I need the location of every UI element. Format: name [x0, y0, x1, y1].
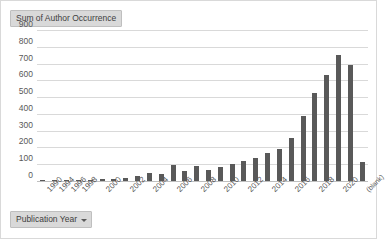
bar[interactable] — [123, 178, 128, 181]
x-slot: 2014 — [262, 182, 274, 222]
bar-slot — [37, 30, 49, 181]
x-slot: 2000 — [96, 182, 108, 222]
bar-slot — [345, 30, 357, 181]
x-slot — [345, 182, 357, 222]
x-slot — [203, 182, 215, 222]
y-tick-label: 900 — [1, 20, 33, 29]
x-slot: 2016 — [285, 182, 297, 222]
bar-slot — [333, 30, 345, 181]
x-slot: 2020 — [333, 182, 345, 222]
bar-slot — [238, 30, 250, 181]
bar-slot — [49, 30, 61, 181]
bar-slot — [297, 30, 309, 181]
bar-slot — [167, 30, 179, 181]
bar-slot — [84, 30, 96, 181]
x-slot: (blank) — [356, 182, 368, 222]
bar-slot — [179, 30, 191, 181]
y-tick-label: 100 — [1, 154, 33, 163]
x-slot: 2018 — [309, 182, 321, 222]
bar[interactable] — [312, 93, 317, 181]
x-slot — [226, 182, 238, 222]
x-slot — [155, 182, 167, 222]
bar[interactable] — [265, 153, 270, 181]
bar[interactable] — [147, 173, 152, 181]
x-slot: 2004 — [143, 182, 155, 222]
y-tick-label: 400 — [1, 103, 33, 112]
x-slot: 2012 — [238, 182, 250, 222]
bar-slot — [120, 30, 132, 181]
bar[interactable] — [360, 162, 365, 181]
bar[interactable] — [348, 65, 353, 181]
bar-slot — [108, 30, 120, 181]
bar-slot — [132, 30, 144, 181]
bar-slot — [250, 30, 262, 181]
x-slot — [297, 182, 309, 222]
bar[interactable] — [241, 161, 246, 181]
bar-slot — [96, 30, 108, 181]
bar-slot — [356, 30, 368, 181]
bar-slot — [309, 30, 321, 181]
y-tick-label: 500 — [1, 87, 33, 96]
bar-slot — [274, 30, 286, 181]
bar-slot — [214, 30, 226, 181]
publication-year-filter-button[interactable]: Publication Year — [10, 211, 92, 228]
bar[interactable] — [301, 116, 306, 181]
x-slot — [321, 182, 333, 222]
y-tick-label: 200 — [1, 137, 33, 146]
bar[interactable] — [218, 167, 223, 181]
bar[interactable] — [336, 55, 341, 181]
chevron-down-icon — [81, 219, 87, 222]
bar[interactable] — [194, 166, 199, 181]
x-slot: 2008 — [191, 182, 203, 222]
x-slot: 2002 — [120, 182, 132, 222]
y-tick-label: 0 — [1, 171, 33, 180]
x-slot: 2006 — [167, 182, 179, 222]
bar[interactable] — [100, 179, 105, 181]
x-slot — [132, 182, 144, 222]
y-tick-label: 700 — [1, 53, 33, 62]
bar[interactable] — [289, 138, 294, 181]
x-slot — [250, 182, 262, 222]
x-slot — [179, 182, 191, 222]
y-tick-label: 800 — [1, 36, 33, 45]
bar-slot — [226, 30, 238, 181]
x-slot: 2010 — [214, 182, 226, 222]
y-tick-label: 600 — [1, 70, 33, 79]
bar-slot — [262, 30, 274, 181]
bar-series — [37, 30, 368, 181]
bar-slot — [72, 30, 84, 181]
bar[interactable] — [324, 75, 329, 181]
y-axis: 9008007006005004003002001000 — [1, 24, 33, 176]
bar-slot — [61, 30, 73, 181]
x-slot — [274, 182, 286, 222]
bar-slot — [321, 30, 333, 181]
bar-slot — [285, 30, 297, 181]
bar-slot — [155, 30, 167, 181]
bar[interactable] — [40, 180, 45, 181]
bar-slot — [191, 30, 203, 181]
y-tick-label: 300 — [1, 120, 33, 129]
plot-area — [37, 30, 368, 181]
x-slot — [108, 182, 120, 222]
bar[interactable] — [171, 165, 176, 181]
axis-field-label: Publication Year — [16, 214, 77, 224]
bar-slot — [203, 30, 215, 181]
bar-slot — [143, 30, 155, 181]
